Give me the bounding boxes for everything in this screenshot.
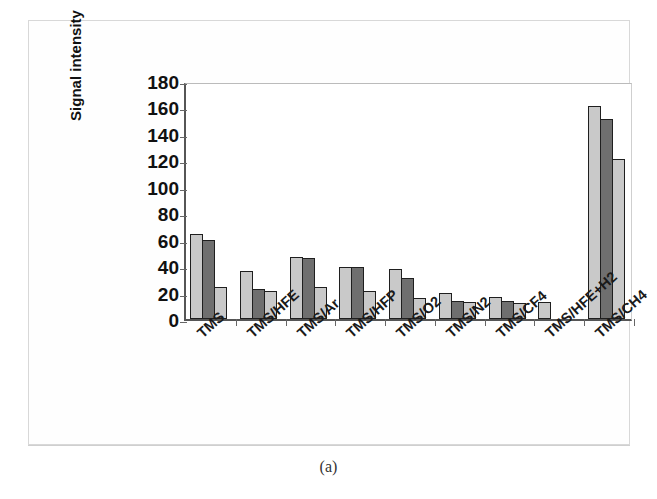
- bar-group: [190, 81, 240, 319]
- bar-group: [240, 81, 290, 319]
- y-tick-mark: [180, 216, 187, 217]
- y-tick-mark: [180, 190, 187, 191]
- figure-root: Signal intensity 180 160 140 120 100 80 …: [0, 0, 657, 499]
- figure-frame: Signal intensity 180 160 140 120 100 80 …: [28, 20, 630, 445]
- y-tick-mark: [180, 84, 187, 85]
- y-tick-label: 20: [117, 285, 179, 305]
- y-tick-label: 140: [117, 126, 179, 146]
- bar-group: [489, 81, 539, 319]
- bar-group: [439, 81, 489, 319]
- caption-divider: [28, 445, 630, 446]
- y-tick-label: 60: [117, 232, 179, 252]
- plot-area: [184, 83, 632, 321]
- y-tick-label: 80: [117, 205, 179, 225]
- y-tick-mark: [180, 137, 187, 138]
- figure-caption: (a): [0, 458, 657, 476]
- y-tick-label: 100: [117, 179, 179, 199]
- bar-group: [290, 81, 340, 319]
- y-axis-tick-labels: 180 160 140 120 100 80 60 40 20 0: [117, 73, 179, 331]
- bar-group: [538, 81, 588, 319]
- x-axis-category-labels: TMSTMS/HFETMS/ArTMS/HFPTMS/O2TMS/N2TMS/C…: [184, 323, 644, 433]
- y-tick-label: 0: [117, 311, 179, 331]
- y-tick-mark: [180, 110, 187, 111]
- y-axis-title: Signal intensity: [67, 0, 84, 176]
- y-tick-mark: [180, 269, 187, 270]
- y-tick-label: 120: [117, 152, 179, 172]
- y-tick-mark: [180, 163, 187, 164]
- y-tick-label: 40: [117, 258, 179, 278]
- y-tick-label: 160: [117, 99, 179, 119]
- y-tick-mark: [180, 243, 187, 244]
- bar: [612, 159, 625, 319]
- bar-group: [339, 81, 389, 319]
- bar-group: [389, 81, 439, 319]
- y-tick-mark: [180, 296, 187, 297]
- y-tick-label: 180: [117, 73, 179, 93]
